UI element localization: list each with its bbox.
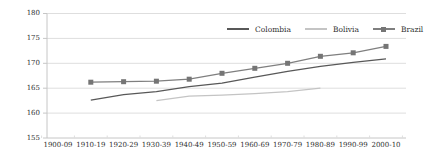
legend-label: Bolivia [333,25,359,34]
chart-legend: Colombia Bolivia Brazil [227,23,423,35]
legend-label: Colombia [255,25,291,34]
height-trend-line-chart: 180 175 170 165 160 155 1900-09 1910-19 … [0,0,424,164]
y-axis-tick-label: 165 [14,84,40,93]
legend-item-brazil: Brazil [373,25,423,34]
legend-item-colombia: Colombia [227,25,291,34]
legend-label: Brazil [401,25,423,34]
y-axis-tick-label: 175 [14,34,40,43]
y-axis-tick-label: 155 [14,134,40,143]
y-axis-tick-label: 170 [14,59,40,68]
bolivia-line-sample-icon [305,28,327,30]
colombia-line-sample-icon [227,28,249,30]
square-marker-icon [381,27,386,32]
y-axis-tick-label: 160 [14,109,40,118]
x-axis-tick-label: 2000-10 [366,141,406,150]
y-axis-tick-label: 180 [14,9,40,18]
brazil-line-sample-icon [373,28,395,30]
legend-item-bolivia: Bolivia [305,25,359,34]
